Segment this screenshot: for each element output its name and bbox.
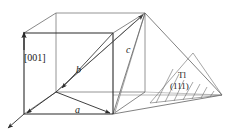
outer-facet-triangle bbox=[113, 13, 222, 114]
vector-b-arrow bbox=[27, 92, 56, 113]
lower-left-axis-arrow bbox=[8, 114, 24, 128]
vector-c-label: c bbox=[126, 44, 130, 55]
baseline-right bbox=[145, 92, 222, 95]
facet-plane-label: (111) bbox=[170, 81, 189, 91]
vector-b-label: b bbox=[76, 64, 81, 75]
vector-a-label: a bbox=[75, 104, 80, 115]
hatched-facet-triangle bbox=[150, 53, 222, 103]
vector-b-long-arrow bbox=[62, 33, 113, 88]
direction-001-label: [001] bbox=[24, 52, 46, 63]
cube-front-face bbox=[24, 33, 113, 114]
diagonal-apex-to-front-bottom bbox=[115, 13, 145, 112]
vector-a-arrow bbox=[56, 92, 110, 113]
lattice-vectors bbox=[27, 15, 143, 113]
crystal-cell-diagram bbox=[0, 0, 228, 134]
facet-species-label: Tl bbox=[178, 70, 186, 80]
